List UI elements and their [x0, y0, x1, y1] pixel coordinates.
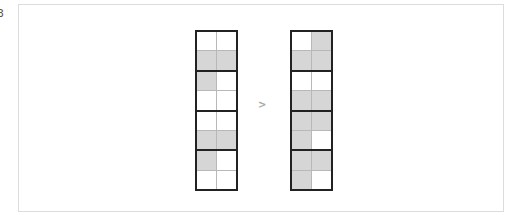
grid-cell-filled: [217, 51, 236, 69]
grid-row: [197, 72, 236, 91]
cropped-label: 3: [0, 7, 4, 20]
grid-cell-empty: [217, 32, 236, 50]
grid-cell-filled: [312, 32, 331, 50]
grid-cell-filled: [292, 171, 312, 189]
grid-cell-filled: [292, 112, 312, 130]
grid-row: [292, 51, 331, 71]
grid-cell-filled: [292, 131, 312, 149]
grid-cell-filled: [197, 131, 217, 149]
grid-cell-filled: [197, 72, 217, 90]
grid-row: [197, 51, 236, 71]
grid-cell-empty: [217, 171, 236, 189]
grid-row: [292, 131, 331, 151]
grid-row: [197, 112, 236, 131]
grid-cell-filled: [217, 131, 236, 149]
grid-cell-empty: [197, 171, 217, 189]
grid-cell-filled: [312, 151, 331, 169]
arrow-right-icon: >: [258, 99, 266, 110]
grid-cell-empty: [292, 32, 312, 50]
grid-cell-empty: [217, 72, 236, 90]
grid-cell-filled: [292, 151, 312, 169]
grid-cell-filled: [312, 51, 331, 69]
grid-row: [197, 171, 236, 189]
grid-cell-empty: [312, 171, 331, 189]
grid-cell-filled: [197, 151, 217, 169]
grid-cell-filled: [197, 51, 217, 69]
grid-row: [292, 112, 331, 131]
grid-cell-empty: [217, 112, 236, 130]
grid-cell-filled: [312, 91, 331, 109]
grid-cell-empty: [217, 151, 236, 169]
grid-row: [292, 32, 331, 51]
grid-cell-empty: [292, 72, 312, 90]
grid-cell-empty: [312, 131, 331, 149]
grid-row: [197, 91, 236, 111]
grid-cell-empty: [217, 91, 236, 109]
grid-cell-filled: [312, 112, 331, 130]
grid-row: [197, 32, 236, 51]
grid-cell-filled: [292, 91, 312, 109]
right-grid: [290, 30, 333, 191]
left-grid: [195, 30, 238, 191]
grid-cell-empty: [197, 112, 217, 130]
grid-row: [197, 131, 236, 151]
grid-row: [292, 72, 331, 91]
grid-row: [292, 91, 331, 111]
grid-cell-empty: [197, 32, 217, 50]
grid-cell-empty: [197, 91, 217, 109]
grid-cell-filled: [292, 51, 312, 69]
grid-cell-empty: [312, 72, 331, 90]
grid-row: [292, 151, 331, 170]
grid-row: [197, 151, 236, 170]
grid-row: [292, 171, 331, 189]
